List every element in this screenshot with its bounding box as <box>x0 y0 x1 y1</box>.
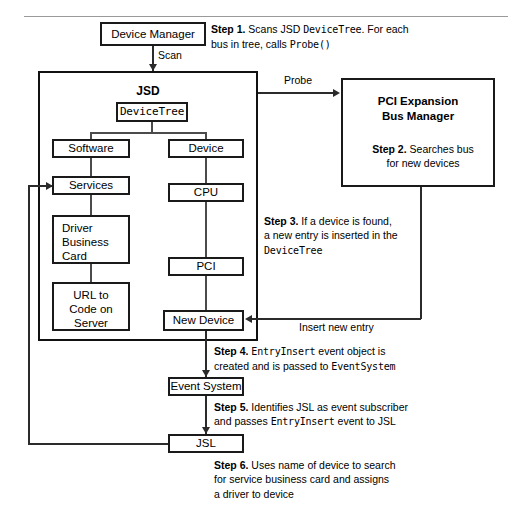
node-services[interactable]: Services <box>52 176 130 195</box>
note-step-4-line1a: event object is <box>315 345 385 357</box>
note-step-3-line1: If a device is found, <box>301 215 391 227</box>
note-step-2-line1: Searches bus <box>410 143 474 155</box>
link-services-dbc <box>90 194 92 216</box>
edge-feedback-vertical <box>28 185 30 444</box>
link-pci-newdevice <box>205 274 207 311</box>
diagram-canvas: Device Manager Step 1. Scans JSD DeviceT… <box>0 0 515 507</box>
note-step-5: Step 5. Identifies JSL as event subscrib… <box>214 400 454 429</box>
note-step-1-line1a: Scans JSD <box>248 23 303 35</box>
node-device[interactable]: Device <box>168 139 244 158</box>
note-step-2-label: Step 2. <box>372 143 406 155</box>
container-jsd-title: JSD <box>0 84 296 98</box>
node-device-tree[interactable]: DeviceTree <box>116 102 188 122</box>
node-device-label: Device <box>188 141 223 155</box>
link-device-cpu <box>205 158 207 184</box>
node-device-manager-label: Device Manager <box>111 27 195 41</box>
node-driver-business-card-line3: Card <box>62 249 122 263</box>
edge-scan-label: Scan <box>158 49 182 61</box>
node-driver-business-card-line2: Business <box>62 235 122 249</box>
note-step-3-label: Step 3. <box>264 215 298 227</box>
note-step-3: Step 3. If a device is found, a new entr… <box>264 214 444 257</box>
tree-bus-horizontal <box>90 132 206 134</box>
node-device-tree-label: DeviceTree <box>120 105 184 118</box>
note-step-5-line2a: and passes <box>214 415 271 427</box>
note-step-1-code1: DeviceTree <box>303 24 361 35</box>
node-device-manager[interactable]: Device Manager <box>100 22 206 46</box>
note-step-2-line2: for new devices <box>387 157 460 169</box>
note-step-1-code2: Probe() <box>290 39 331 50</box>
note-step-6-line2: for service business card and assigns <box>214 473 389 485</box>
link-software-services <box>90 158 92 177</box>
edge-feedback-bottom <box>28 443 168 445</box>
edge-insert-new-entry-label: Insert new entry <box>299 321 374 333</box>
note-step-6: Step 6. Uses name of device to search fo… <box>214 458 454 501</box>
note-step-6-label: Step 6. <box>214 459 248 471</box>
node-jsl-label: JSL <box>196 436 216 450</box>
node-url-to-code-line1: URL to <box>54 288 128 302</box>
note-step-5-line1: Identifies JSL as event subscriber <box>251 401 408 413</box>
note-step-4-code2: EventSystem <box>331 361 395 372</box>
note-step-1-label: Step 1. <box>211 23 245 35</box>
node-cpu[interactable]: CPU <box>168 183 244 202</box>
top-divider-rule <box>24 16 508 17</box>
node-driver-business-card[interactable]: Driver Business Card <box>52 215 130 264</box>
node-url-to-code-line2: Code on <box>54 302 128 316</box>
note-step-3-code: DeviceTree <box>264 245 322 256</box>
node-cpu-label: CPU <box>194 185 218 199</box>
edge-eventsystem-jsl-arrowhead <box>202 427 210 434</box>
link-cpu-pci <box>205 200 207 258</box>
note-step-4-label: Step 4. <box>214 345 248 357</box>
node-software-label: Software <box>68 141 113 155</box>
edge-probe-arrowhead <box>333 89 340 97</box>
node-driver-business-card-line1: Driver <box>62 221 122 235</box>
note-step-6-line1: Uses name of device to search <box>251 459 395 471</box>
node-jsl[interactable]: JSL <box>168 434 244 453</box>
note-step-5-label: Step 5. <box>214 401 248 413</box>
node-new-device[interactable]: New Device <box>163 310 244 331</box>
node-event-system[interactable]: Event System <box>168 377 244 396</box>
node-pci-expansion-bus-manager[interactable]: PCI Expansion Bus Manager Step 2. Search… <box>341 78 495 187</box>
note-step-6-line3: a driver to device <box>214 488 294 500</box>
note-step-5-code: EntryInsert <box>271 416 335 427</box>
note-step-1: Step 1. Scans JSD DeviceTree. For each b… <box>211 22 511 51</box>
node-software[interactable]: Software <box>52 139 130 158</box>
node-pci-expansion-title-line1: PCI Expansion <box>378 95 459 107</box>
node-pci[interactable]: PCI <box>168 257 244 276</box>
edge-feedback-arrowhead <box>46 182 53 190</box>
node-new-device-label: New Device <box>173 313 234 327</box>
node-services-label: Services <box>69 178 113 192</box>
note-step-3-line2: a new entry is inserted in the <box>264 229 398 241</box>
node-pci-expansion-title-line2: Bus Manager <box>382 110 454 122</box>
edge-insert-arrowhead <box>245 315 252 323</box>
note-step-4: Step 4. EntryInsert event object is crea… <box>214 344 444 373</box>
node-url-to-code-on-server[interactable]: URL to Code on Server <box>52 282 130 331</box>
node-event-system-label: Event System <box>171 379 242 393</box>
edge-insert-horizontal <box>250 318 421 320</box>
note-step-4-code1: EntryInsert <box>251 346 315 357</box>
link-dbc-url <box>90 263 92 283</box>
edge-probe-line <box>258 92 336 94</box>
edge-probe-label: Probe <box>284 74 312 86</box>
note-step-2: Step 2. Searches bus for new devices <box>357 142 489 171</box>
node-pci-expansion-title: PCI Expansion Bus Manager <box>343 94 493 124</box>
node-pci-label: PCI <box>196 259 215 273</box>
node-url-to-code-line3: Server <box>54 316 128 330</box>
note-step-1-line2a: bus in tree, calls <box>211 38 290 50</box>
edge-newdevice-eventsystem-arrowhead <box>202 370 210 377</box>
note-step-5-line2b: event to JSL <box>335 415 396 427</box>
edge-scan-arrowhead <box>149 64 157 71</box>
note-step-1-line1b: . For each <box>361 23 408 35</box>
note-step-4-line2a: created and is passed to <box>214 360 331 372</box>
